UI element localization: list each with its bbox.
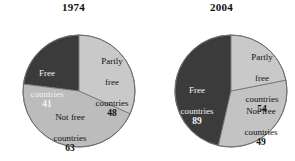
pie-chart-figure: 1974 Free countries 41 Partly free co xyxy=(0,0,295,161)
pie-2004-svg xyxy=(148,0,295,161)
pie-1974-svg xyxy=(0,0,147,161)
panel-1974: 1974 Free countries 41 Partly free co xyxy=(0,0,147,161)
panel-2004: 2004 Free countries 89 Partly free co xyxy=(148,0,295,161)
pie-2004: Free countries 89 Partly free countries … xyxy=(148,0,295,161)
slice-1974-free xyxy=(23,35,79,91)
pie-1974: Free countries 41 Partly free countries … xyxy=(0,0,147,161)
